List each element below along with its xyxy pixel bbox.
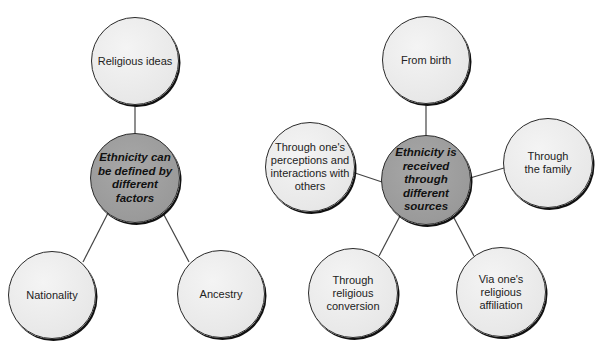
node-label: From birth: [397, 54, 455, 67]
connector-affiliation: [453, 216, 474, 256]
hub-label: Ethnicity can be defined by different fa…: [91, 151, 179, 205]
connector-perceptions: [352, 172, 382, 182]
hub-label: Ethnicity is received through different …: [391, 146, 460, 214]
node-label: Via one's religious affiliation: [475, 273, 528, 312]
node-label: Through one's perceptions and interactio…: [267, 141, 354, 193]
node-perceptions: Through one's perceptions and interactio…: [265, 122, 355, 212]
hub-ethnicity-defined: Ethnicity can be defined by different fa…: [90, 133, 180, 223]
node-label: Ancestry: [196, 288, 247, 301]
node-ancestry: Ancestry: [177, 250, 265, 338]
node-label: Through religious conversion: [322, 274, 383, 313]
connector-nationality: [83, 213, 108, 262]
node-religious-affiliation: Via one's religious affiliation: [456, 247, 546, 337]
connector-conversion: [379, 216, 400, 256]
node-religious-ideas: Religious ideas: [91, 17, 179, 105]
node-from-birth: From birth: [382, 16, 470, 104]
node-label: Nationality: [22, 289, 81, 302]
node-nationality: Nationality: [8, 251, 96, 339]
node-family: Through the family: [503, 118, 593, 208]
node-label: Religious ideas: [94, 55, 177, 68]
hub-ethnicity-received: Ethnicity is received through different …: [381, 135, 471, 225]
node-religious-conversion: Through religious conversion: [308, 248, 398, 338]
connector-family: [470, 168, 504, 178]
node-label: Through the family: [520, 150, 575, 176]
connector-ancestry: [163, 213, 189, 262]
